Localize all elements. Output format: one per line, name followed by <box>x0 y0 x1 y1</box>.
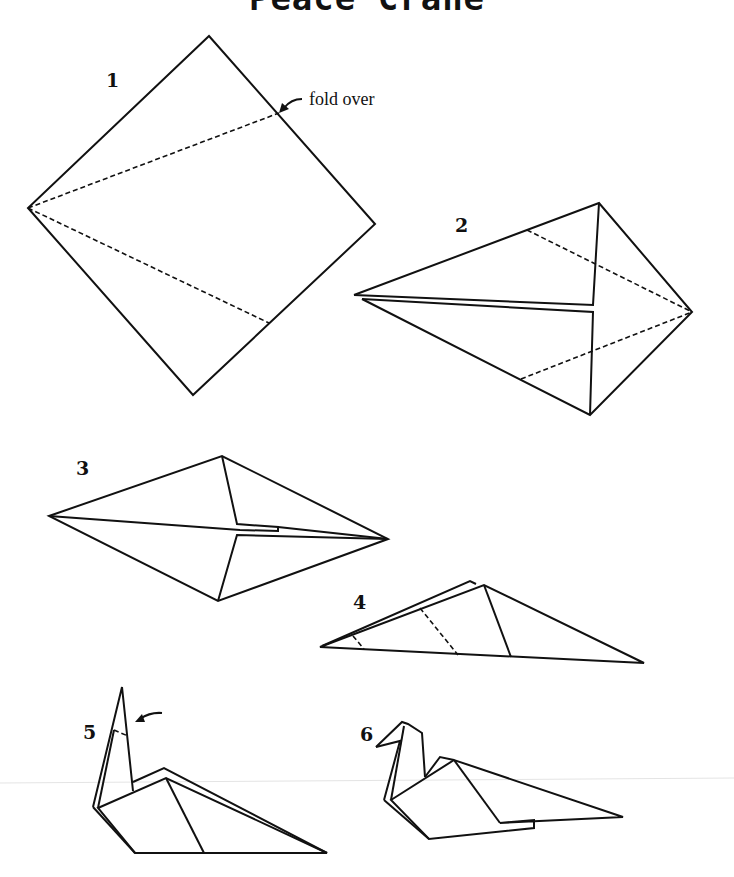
fold-line <box>353 636 364 649</box>
step-number: 2 <box>455 214 468 236</box>
step-3: 3 <box>49 456 388 601</box>
scan-line <box>0 778 734 783</box>
back-flap <box>322 581 476 646</box>
step-number: 6 <box>360 723 373 745</box>
fold-line <box>521 312 692 379</box>
fold-over-label: fold over <box>309 89 374 109</box>
inner-fold <box>454 760 500 823</box>
origami-diagram: 1 fold over 2 3 4 5 <box>0 0 734 877</box>
folded-triangle <box>320 585 644 663</box>
fold-line <box>420 608 458 655</box>
curved-arrow-icon <box>284 99 302 108</box>
neck <box>93 687 133 807</box>
arrow-head <box>135 714 145 722</box>
fold-line <box>28 208 269 323</box>
upper-flap <box>354 203 599 305</box>
step-number: 5 <box>83 721 96 743</box>
inner-fold <box>166 778 204 853</box>
neck-inner <box>98 730 114 808</box>
body-edge <box>384 800 429 839</box>
step-1: 1 fold over <box>28 36 375 395</box>
body-edge <box>93 807 135 853</box>
step-5: 5 <box>83 687 327 853</box>
step-4: 4 <box>320 581 644 663</box>
step-number: 1 <box>106 69 119 91</box>
step-number: 4 <box>353 591 366 613</box>
body <box>391 760 623 839</box>
fold-line <box>527 230 692 312</box>
fold-line <box>28 113 279 208</box>
neck-inner <box>391 726 404 800</box>
step-number: 3 <box>76 457 89 479</box>
step-2: 2 <box>354 203 692 415</box>
back-edge <box>425 757 454 777</box>
